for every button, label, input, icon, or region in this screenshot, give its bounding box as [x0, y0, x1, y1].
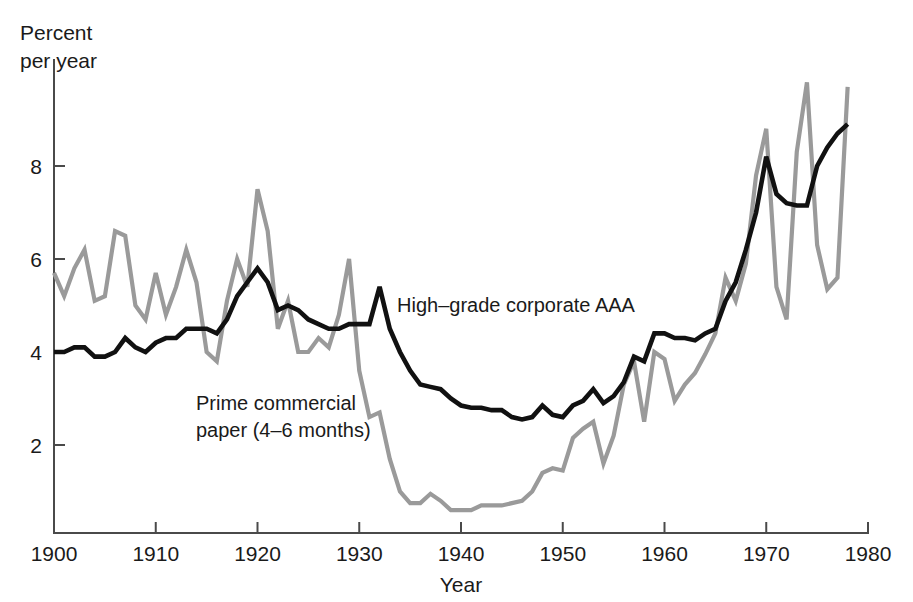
- x-tick-label-1910: 1910: [132, 542, 179, 565]
- annotation-aaa: High–grade corporate AAA: [397, 294, 636, 316]
- x-tick-label-1970: 1970: [743, 542, 790, 565]
- y-tick-label-2: 2: [30, 434, 42, 457]
- x-tick-label-1940: 1940: [438, 542, 485, 565]
- x-tick-label-1900: 1900: [31, 542, 78, 565]
- annotation-commercial-paper-line1: Prime commercial: [196, 392, 356, 414]
- y-axis-title-line1: Percent: [20, 21, 93, 44]
- x-tick-label-1930: 1930: [336, 542, 383, 565]
- x-tick-label-1920: 1920: [234, 542, 281, 565]
- x-tick-label-1960: 1960: [641, 542, 688, 565]
- annotation-commercial-paper: Prime commercial paper (4–6 months): [196, 392, 371, 441]
- y-axis-title-line2: per year: [20, 49, 97, 72]
- x-tick-label-1980: 1980: [845, 542, 892, 565]
- annotation-aaa-label: High–grade corporate AAA: [397, 294, 636, 316]
- y-tick-label-4: 4: [30, 341, 42, 364]
- chart-ticks: 2468190019101920193019401950196019701980: [30, 155, 891, 565]
- interest-rates-chart: Percent per year 24681900191019201930194…: [0, 0, 913, 602]
- series-line-aaa: [54, 124, 848, 419]
- x-axis-title: Year: [440, 573, 482, 596]
- y-tick-label-8: 8: [30, 155, 42, 178]
- y-axis-title-group: Percent per year: [20, 21, 97, 72]
- annotation-commercial-paper-line2: paper (4–6 months): [196, 419, 371, 441]
- x-tick-label-1950: 1950: [539, 542, 586, 565]
- chart-plot-area: Percent per year 24681900191019201930194…: [0, 0, 913, 602]
- y-tick-label-6: 6: [30, 248, 42, 271]
